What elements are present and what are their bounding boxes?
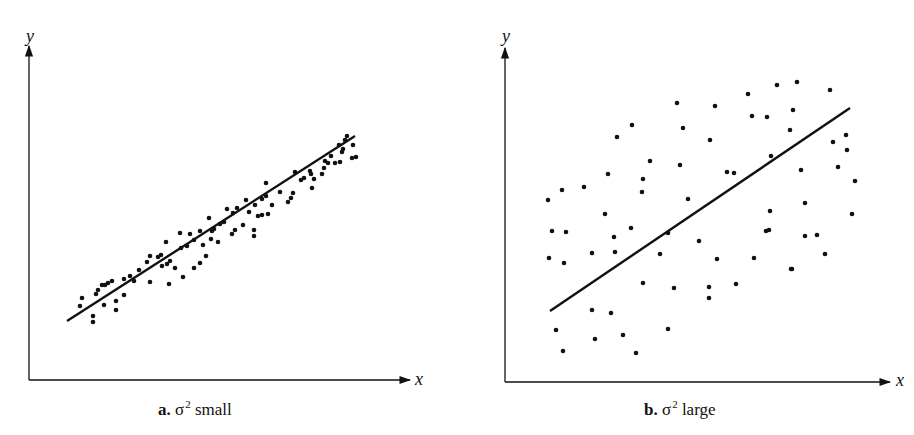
data-point bbox=[707, 296, 712, 301]
data-point bbox=[181, 275, 186, 280]
data-point bbox=[160, 264, 165, 269]
data-point bbox=[750, 114, 755, 119]
data-point bbox=[546, 198, 551, 203]
data-point bbox=[264, 194, 269, 199]
data-point bbox=[185, 244, 190, 249]
data-point bbox=[230, 232, 235, 237]
data-point bbox=[94, 292, 99, 297]
data-point bbox=[775, 83, 780, 88]
data-point bbox=[641, 177, 646, 182]
data-point bbox=[734, 282, 739, 287]
x-axis-label-b: x bbox=[896, 370, 904, 391]
data-point bbox=[338, 160, 343, 165]
data-point bbox=[286, 200, 291, 205]
data-point bbox=[320, 172, 325, 177]
data-point bbox=[326, 161, 331, 166]
data-point bbox=[299, 178, 304, 183]
data-point bbox=[225, 207, 230, 212]
data-point bbox=[666, 327, 671, 332]
data-point bbox=[764, 229, 769, 234]
data-point bbox=[192, 266, 197, 271]
data-point bbox=[159, 253, 164, 258]
data-point bbox=[836, 165, 841, 170]
data-point bbox=[560, 188, 565, 193]
data-point bbox=[310, 186, 315, 191]
data-point bbox=[293, 170, 298, 175]
data-point bbox=[260, 213, 265, 218]
data-point bbox=[222, 220, 227, 225]
regression-line bbox=[550, 108, 850, 311]
regression-line bbox=[67, 136, 355, 321]
caption-b-letter: b. bbox=[644, 400, 658, 419]
data-point bbox=[198, 261, 203, 266]
data-point bbox=[253, 203, 258, 208]
data-point bbox=[247, 210, 252, 215]
data-point bbox=[850, 212, 855, 217]
data-point bbox=[337, 143, 342, 148]
data-point bbox=[550, 229, 555, 234]
data-point bbox=[91, 320, 96, 325]
data-point bbox=[561, 349, 566, 354]
data-point bbox=[823, 252, 828, 257]
data-point bbox=[322, 166, 327, 171]
data-point bbox=[164, 240, 169, 245]
data-point bbox=[110, 279, 115, 284]
caption-a-symbol: σ bbox=[175, 400, 184, 419]
data-point bbox=[122, 293, 127, 298]
data-point bbox=[204, 254, 209, 259]
caption-b-text: large bbox=[682, 400, 716, 419]
data-point bbox=[590, 308, 595, 313]
data-point bbox=[168, 259, 173, 264]
data-point bbox=[768, 209, 773, 214]
data-point bbox=[278, 190, 283, 195]
data-point bbox=[844, 133, 849, 138]
data-point bbox=[831, 140, 836, 145]
data-point bbox=[828, 88, 833, 93]
data-point bbox=[791, 108, 796, 113]
data-point bbox=[179, 246, 184, 251]
data-point bbox=[192, 238, 197, 243]
data-point bbox=[137, 268, 142, 273]
data-point bbox=[80, 296, 85, 301]
data-point bbox=[615, 135, 620, 140]
data-point bbox=[148, 280, 153, 285]
data-points bbox=[546, 80, 858, 356]
data-point bbox=[640, 190, 645, 195]
data-point bbox=[333, 161, 338, 166]
data-point bbox=[788, 128, 793, 133]
data-point bbox=[789, 267, 794, 272]
data-point bbox=[102, 303, 107, 308]
caption-b-symbol: σ bbox=[662, 400, 671, 419]
data-point bbox=[209, 237, 214, 242]
data-point bbox=[260, 197, 265, 202]
data-point bbox=[188, 232, 193, 237]
data-point bbox=[732, 171, 737, 176]
data-point bbox=[145, 260, 150, 265]
data-point bbox=[96, 288, 101, 293]
data-point bbox=[562, 261, 567, 266]
data-point bbox=[641, 281, 646, 286]
data-point bbox=[681, 126, 686, 131]
data-point bbox=[795, 80, 800, 85]
data-point bbox=[803, 201, 808, 206]
data-point bbox=[630, 123, 635, 128]
data-point bbox=[350, 156, 355, 161]
data-point bbox=[547, 256, 552, 261]
data-point bbox=[91, 314, 96, 319]
data-point bbox=[354, 155, 359, 160]
data-point bbox=[114, 299, 119, 304]
data-point bbox=[178, 231, 183, 236]
x-axis-label-a: x bbox=[415, 369, 423, 390]
data-point bbox=[593, 337, 598, 342]
caption-a-letter: a. bbox=[158, 400, 171, 419]
data-point bbox=[666, 231, 671, 236]
data-point bbox=[122, 277, 127, 282]
data-point bbox=[289, 196, 294, 201]
data-point bbox=[634, 351, 639, 356]
data-point bbox=[233, 228, 238, 233]
data-point bbox=[708, 138, 713, 143]
data-point bbox=[198, 229, 203, 234]
data-point bbox=[697, 239, 702, 244]
data-point bbox=[678, 163, 683, 168]
data-point bbox=[752, 256, 757, 261]
